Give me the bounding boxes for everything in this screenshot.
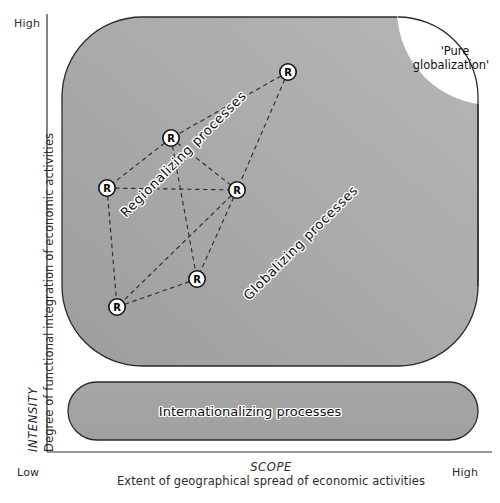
region-node-label: R [103, 183, 111, 194]
region-node-label: R [167, 133, 175, 144]
internationalizing-processes-label: Internationalizing processes [0, 404, 500, 419]
diagram-canvas: RRRRRR [0, 0, 500, 503]
x-axis-low-label: Low [17, 466, 39, 479]
region-node-label: R [193, 274, 201, 285]
region-node[interactable]: R [189, 271, 205, 287]
region-node[interactable]: R [109, 299, 125, 315]
x-axis-title-scope: SCOPE [62, 460, 480, 474]
pure-globalization-line-1: 'Pure [409, 44, 493, 58]
pure-globalization-line-2: globalization' [409, 58, 493, 72]
x-axis-title-sub: Extent of geographical spread of economi… [62, 474, 480, 488]
diagram-figure: RRRRRR High Low High INTENSITY Degree of… [0, 0, 500, 503]
x-axis-title: SCOPE Extent of geographical spread of e… [62, 460, 480, 488]
region-node[interactable]: R [163, 130, 179, 146]
region-node-label: R [113, 302, 121, 313]
pure-globalization-label: 'Pure globalization' [409, 44, 493, 72]
region-node[interactable]: R [229, 182, 245, 198]
y-axis-title-intensity: INTENSITY [26, 387, 40, 452]
region-node-label: R [233, 185, 241, 196]
region-node-label: R [284, 67, 292, 78]
region-node[interactable]: R [280, 64, 296, 80]
y-axis-high-label: High [14, 17, 40, 30]
region-node[interactable]: R [99, 180, 115, 196]
